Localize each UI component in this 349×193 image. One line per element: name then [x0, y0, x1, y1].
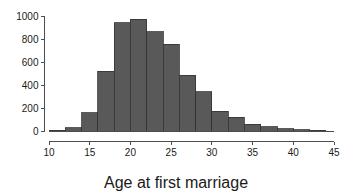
histogram-bar [244, 124, 260, 131]
histogram-bar [147, 32, 163, 131]
y-axis-tick-label: 600 [22, 57, 39, 68]
histogram-bar [163, 44, 179, 131]
x-axis-tick-label: 30 [206, 147, 218, 158]
histogram-bar [228, 117, 244, 131]
histogram-bar [82, 113, 98, 131]
x-axis-title: Age at first marriage [104, 174, 248, 191]
x-axis-tick-label: 35 [247, 147, 259, 158]
y-axis-tick-label: 400 [22, 80, 39, 91]
x-axis-tick-label: 10 [43, 147, 55, 158]
y-axis-tick-label: 0 [33, 126, 39, 137]
histogram-bar [179, 75, 195, 131]
x-axis-tick-label: 20 [125, 147, 137, 158]
y-axis-tick-label: 1000 [16, 11, 39, 22]
histogram-bar [114, 23, 130, 131]
histogram-chart: 02004006008001000 1015202530354045 Age a… [0, 0, 349, 193]
chart-canvas: 02004006008001000 1015202530354045 Age a… [0, 0, 349, 193]
x-axis-tick-label: 40 [288, 147, 300, 158]
histogram-bar [98, 71, 114, 131]
y-axis-tick-label: 800 [22, 34, 39, 45]
x-axis-tick-label: 45 [328, 147, 340, 158]
histogram-bar [65, 128, 81, 131]
histogram-bar [261, 127, 277, 131]
histogram-bar [196, 92, 212, 131]
y-axis-tick-label: 200 [22, 103, 39, 114]
x-axis-tick-label: 25 [166, 147, 178, 158]
histogram-bar [212, 111, 228, 131]
x-axis-tick-label: 15 [84, 147, 96, 158]
histogram-bar [130, 19, 146, 131]
